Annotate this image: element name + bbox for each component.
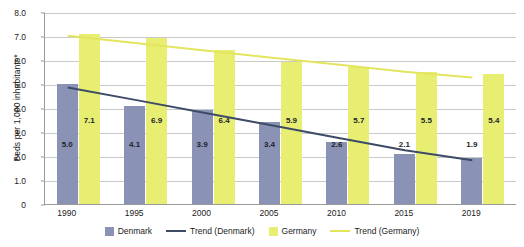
legend-label: Denmark: [118, 226, 152, 236]
y-axis-tick-label: 3.0: [0, 128, 26, 138]
legend-label: Germany: [282, 226, 317, 236]
y-axis-tick-label: 5.0: [0, 80, 26, 90]
x-axis-tick-label-2005: 2005: [234, 208, 304, 218]
legend-item-denmark[interactable]: Denmark: [105, 226, 152, 236]
x-axis-tick-label-1995: 1995: [99, 208, 169, 218]
chart-legend: DenmarkTrend (Denmark)GermanyTrend (Germ…: [0, 226, 524, 236]
legend-label: Trend (Denmark): [190, 226, 254, 236]
trend-line-trend-germany-: [68, 36, 473, 78]
y-axis-tick-label: 8.0: [0, 8, 26, 18]
x-axis-tick-label-2015: 2015: [369, 208, 439, 218]
legend-label: Trend (Germany): [354, 226, 419, 236]
y-axis-tick-label: 4.0: [0, 104, 26, 114]
legend-item-trend-germany-[interactable]: Trend (Germany): [330, 226, 419, 236]
legend-line-icon: [166, 230, 186, 232]
legend-line-icon: [330, 230, 350, 232]
x-axis-tick-label-2010: 2010: [301, 208, 371, 218]
legend-swatch-icon: [105, 227, 114, 236]
plot-area: 5.07.14.16.93.96.43.45.92.65.72.15.51.95…: [44, 13, 516, 205]
y-axis-tick-label: 0: [0, 200, 26, 210]
y-axis-tick-label: 6.0: [0, 56, 26, 66]
y-axis-tick-label: 2.0: [0, 152, 26, 162]
y-axis-tick-label: 1.0: [0, 176, 26, 186]
x-axis-tick-label-2000: 2000: [167, 208, 237, 218]
legend-item-germany[interactable]: Germany: [269, 226, 317, 236]
trend-lines: [45, 13, 517, 205]
x-axis-tick-label-1990: 1990: [32, 208, 102, 218]
x-axis-tick-label-2019: 2019: [436, 208, 506, 218]
legend-item-trend-denmark-[interactable]: Trend (Denmark): [166, 226, 254, 236]
y-axis-tick-label: 7.0: [0, 32, 26, 42]
chart-container: Beds per 1,000 inhabitants* 8.07.06.05.0…: [0, 0, 524, 247]
legend-swatch-icon: [269, 227, 278, 236]
trend-line-trend-denmark-: [68, 87, 473, 160]
